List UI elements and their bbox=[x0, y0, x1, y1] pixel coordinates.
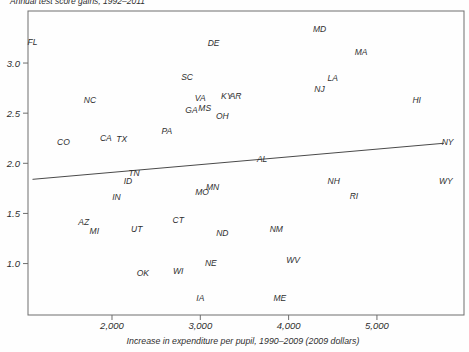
scatter-plot-figure: Annual test score gains, 1992–2011 2,000… bbox=[0, 0, 469, 352]
state-label-AL: AL bbox=[256, 154, 268, 164]
x-tick-label: 2,000 bbox=[99, 320, 124, 331]
state-label-DE: DE bbox=[208, 38, 220, 48]
trend-line bbox=[33, 143, 445, 179]
state-label-MA: MA bbox=[355, 47, 368, 57]
data-points: FLDEMDMASCNCVAKYARGAMSOHLANJHICOCATXPAAL… bbox=[28, 24, 455, 303]
x-axis-title: Increase in expenditure per pupil, 1990–… bbox=[127, 336, 360, 346]
state-label-ID: ID bbox=[124, 176, 133, 186]
state-label-HI: HI bbox=[412, 95, 421, 105]
state-label-VA: VA bbox=[195, 93, 206, 103]
state-label-LA: LA bbox=[328, 73, 339, 83]
state-label-ND: ND bbox=[216, 228, 228, 238]
state-label-NJ: NJ bbox=[314, 84, 325, 94]
y-tick-label: 2.0 bbox=[6, 158, 21, 169]
state-label-FL: FL bbox=[28, 37, 38, 47]
state-label-IA: IA bbox=[196, 293, 204, 303]
x-tick-label: 5,000 bbox=[365, 320, 389, 331]
state-label-OH: OH bbox=[216, 111, 230, 121]
state-label-MN: MN bbox=[206, 182, 220, 192]
state-label-MS: MS bbox=[198, 103, 211, 113]
y-tick-label: 2.5 bbox=[6, 108, 21, 119]
state-label-PA: PA bbox=[161, 126, 172, 136]
state-label-UT: UT bbox=[131, 224, 143, 234]
state-label-CT: CT bbox=[173, 215, 185, 225]
state-label-MD: MD bbox=[313, 24, 326, 34]
state-label-NM: NM bbox=[270, 224, 284, 234]
y-tick-label: 3.0 bbox=[7, 58, 21, 69]
y-tick-label: 1.5 bbox=[7, 208, 21, 219]
state-label-WI: WI bbox=[173, 266, 184, 276]
state-label-TX: TX bbox=[116, 134, 127, 144]
x-tick-label: 4,000 bbox=[277, 320, 301, 331]
y-tick-label: 1.0 bbox=[7, 258, 21, 269]
state-label-AZ: AZ bbox=[77, 217, 90, 227]
state-label-CO: CO bbox=[57, 137, 70, 147]
state-label-WY: WY bbox=[439, 176, 454, 186]
state-label-WV: WV bbox=[286, 255, 301, 265]
state-label-IN: IN bbox=[112, 192, 121, 202]
state-label-NY: NY bbox=[442, 137, 455, 147]
state-label-NE: NE bbox=[205, 258, 217, 268]
scatter-chart: Annual test score gains, 1992–2011 2,000… bbox=[0, 0, 469, 352]
state-label-AR: AR bbox=[229, 91, 242, 101]
state-label-MI: MI bbox=[90, 226, 100, 236]
state-label-ME: ME bbox=[273, 293, 286, 303]
state-label-SC: SC bbox=[181, 72, 194, 82]
figure-title: Annual test score gains, 1992–2011 bbox=[9, 0, 145, 6]
state-label-GA: GA bbox=[185, 105, 198, 115]
state-label-NH: NH bbox=[328, 176, 341, 186]
state-label-OK: OK bbox=[137, 268, 150, 278]
state-label-RI: RI bbox=[350, 191, 359, 201]
x-tick-label: 3,000 bbox=[188, 320, 212, 331]
state-label-NC: NC bbox=[84, 95, 97, 105]
plot-border bbox=[28, 11, 464, 315]
state-label-CA: CA bbox=[100, 133, 112, 143]
